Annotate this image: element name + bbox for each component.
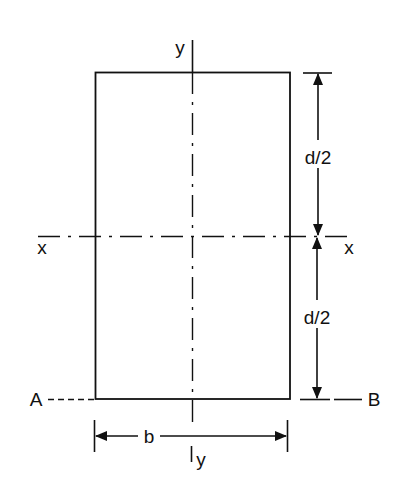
lower-d-half-label: d/2 xyxy=(304,307,330,328)
upper-d-half-label: d/2 xyxy=(305,147,331,168)
y-axis-top-label: y xyxy=(175,37,185,58)
upper-half-depth-dimension: d/2 xyxy=(305,74,331,235)
reference-point-b-label: B xyxy=(368,389,381,410)
reference-point-a-label: A xyxy=(30,389,43,410)
width-b-label: b xyxy=(144,426,155,447)
x-axis-right-label: x xyxy=(344,237,354,258)
y-axis-bottom-label: y xyxy=(196,449,206,470)
lower-half-depth-dimension: d/2 xyxy=(304,238,330,398)
section-diagram: y y x x d/2 d/2 A B b xyxy=(0,0,397,490)
x-axis-left-label: x xyxy=(37,237,47,258)
